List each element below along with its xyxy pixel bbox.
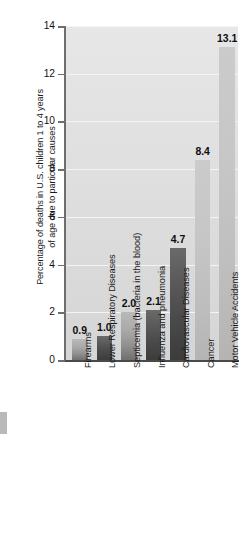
y-axis-tick [58,360,65,362]
y-axis-tick [58,26,65,28]
page-edge-artifact [0,412,7,434]
y-axis-tick-label: 2 [15,307,55,317]
bar-chart: Percentage of deaths in U.S. children 1 … [0,0,252,546]
bar-value-label: 8.4 [189,147,217,157]
y-axis-tick [58,312,65,314]
y-axis-tick-label: 0 [15,355,55,365]
y-axis-tick [58,121,65,123]
bar-value-label: 4.7 [164,235,192,245]
x-axis-category-label: Firearms [84,332,94,368]
y-axis-tick-label: 10 [15,116,55,126]
y-axis-tick-label: 4 [15,260,55,270]
x-axis-category-label: Influenza and pneumonia [158,266,168,368]
y-axis-tick [58,74,65,76]
bar-series [66,26,238,360]
y-axis-tick [58,217,65,219]
y-axis-tick-label: 8 [15,164,55,174]
bar [195,160,211,360]
x-axis-category-label: Septicemia (bacteria in the blood) [133,233,143,368]
x-axis-category-label: Motor Vehicle Accidents [231,272,241,368]
bar-value-label: 13.1 [213,34,241,44]
y-axis-tick-label: 6 [15,212,55,222]
y-axis-tick [58,169,65,171]
y-axis-tick [58,265,65,267]
x-axis-category-label: Cardiovascular Diseases [182,268,192,368]
y-axis-tick-label: 12 [15,69,55,79]
x-axis-category-label: Lower Respiratory Diseases [108,254,118,368]
y-axis-tick-label: 14 [15,21,55,31]
x-axis-category-label: Cancer [207,339,217,368]
